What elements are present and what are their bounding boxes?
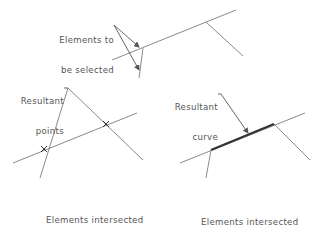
left-callout-line-1: Resultant — [6, 96, 64, 106]
right-callout-line-1: Resultant — [160, 102, 218, 112]
right-callout-line-2: curve — [160, 132, 218, 142]
top-callout-line-1: Elements to — [50, 35, 114, 45]
left-callout-line-2: points — [6, 126, 64, 136]
left-element — [139, 48, 143, 78]
intersection-point-2 — [103, 121, 109, 127]
intersection-point-1 — [41, 146, 47, 152]
top-callout-label: Elements to be selected — [50, 15, 114, 85]
left-callout-label: Resultant points — [6, 76, 64, 146]
main-line — [112, 10, 236, 60]
left-element — [206, 150, 211, 178]
right-element — [206, 22, 243, 56]
leader-arrow-2 — [114, 25, 139, 70]
top-callout-line-2: be selected — [50, 65, 114, 75]
right-element — [274, 124, 310, 160]
curve-caption: Elements intersected when the Curve radi… — [201, 197, 300, 237]
resultant-curve — [211, 124, 274, 150]
point-caption: Elements intersected when the Point radi… — [46, 195, 143, 237]
curve-caption-line-1: Elements intersected — [201, 217, 300, 227]
leader-arrow — [221, 94, 248, 133]
top-diagram — [112, 10, 243, 78]
right-callout-label: Resultant curve — [160, 82, 218, 152]
point-caption-line-1: Elements intersected — [46, 215, 143, 225]
leader-arrow-1 — [114, 25, 139, 47]
